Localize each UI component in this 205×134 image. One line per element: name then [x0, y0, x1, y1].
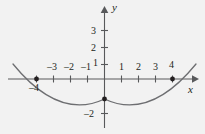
x-axis-arrow-icon — [192, 75, 199, 83]
x-axis-label--3: –3 — [47, 62, 57, 72]
x-axis-name: x — [188, 84, 193, 95]
y-axis-label--2: –2 — [84, 109, 94, 119]
y-axis-label-3: 3 — [91, 26, 96, 36]
x-axis-label-1: 1 — [119, 62, 124, 72]
y-axis-name: y — [112, 2, 117, 13]
x-axis-label--1: –1 — [81, 62, 91, 72]
y-axis-label-1: 1 — [93, 58, 98, 68]
y-axis-arrow-icon — [101, 6, 109, 13]
point-right-x-intercept — [170, 77, 175, 82]
graph-figure: –3 –2 –1 1 2 3 4 –4 3 2 1 –2 y x — [0, 0, 205, 134]
point-vertex — [102, 97, 107, 102]
x-axis-label-3: 3 — [153, 62, 158, 72]
y-axis-label-2: 2 — [91, 43, 96, 53]
x-axis-label-2: 2 — [136, 62, 141, 72]
x-axis-label--2: –2 — [64, 62, 74, 72]
x-axis-label--4: –4 — [29, 83, 39, 93]
coordinate-plot — [0, 0, 205, 134]
point-left-x-intercept — [34, 77, 39, 82]
x-axis-label-4: 4 — [169, 60, 174, 70]
